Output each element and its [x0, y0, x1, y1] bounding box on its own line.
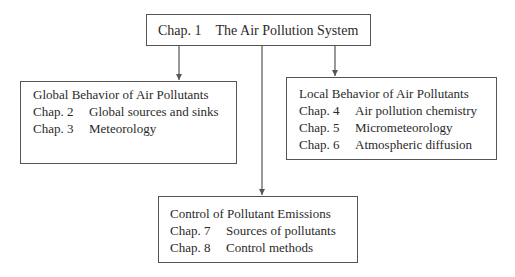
chapter-entry: Chap. 3 Meteorology — [33, 120, 236, 137]
chapter-number: Chap. 6 — [299, 136, 355, 153]
chapter-title: Sources of pollutants — [226, 222, 336, 239]
section-heading: Local Behavior of Air Pollutants — [299, 85, 496, 102]
local-behavior-box: Local Behavior of Air Pollutants Chap. 4… — [286, 77, 497, 160]
chapter-entry: Chap. 5 Micrometeorology — [299, 119, 496, 136]
global-behavior-box: Global Behavior of Air Pollutants Chap. … — [20, 81, 237, 164]
chapter-title: Global sources and sinks — [89, 103, 219, 120]
section-heading: Control of Pollutant Emissions — [170, 205, 357, 222]
chapter-title: The Air Pollution System — [216, 22, 359, 39]
chapter-number: Chap. 2 — [33, 103, 89, 120]
chapter-number: Chap. 3 — [33, 120, 89, 137]
chapter-title: Control methods — [226, 239, 313, 256]
chapter-number: Chap. 8 — [170, 239, 226, 256]
chapter-entry: Chap. 6 Atmospheric diffusion — [299, 136, 496, 153]
air-pollution-system-box: Chap. 1 The Air Pollution System — [146, 14, 371, 46]
chapter-number: Chap. 4 — [299, 102, 355, 119]
chapter-number: Chap. 7 — [170, 222, 226, 239]
chapter-title: Meteorology — [89, 120, 219, 137]
chapter-title: Air pollution chemistry — [355, 102, 477, 119]
chapter-entry: Chap. 7 Sources of pollutants — [170, 222, 357, 239]
chapter-number: Chap. 1 — [158, 22, 202, 39]
section-heading: Global Behavior of Air Pollutants — [33, 86, 236, 103]
control-of-emissions-box: Control of Pollutant Emissions Chap. 7 S… — [158, 196, 358, 263]
chapter-title: Atmospheric diffusion — [355, 136, 472, 153]
chapter-number: Chap. 5 — [299, 119, 355, 136]
chapter-entry: Chap. 2 Global sources and sinks — [33, 103, 236, 120]
chapter-entry: Chap. 8 Control methods — [170, 239, 357, 256]
chapter-title: Micrometeorology — [355, 119, 452, 136]
chapter-entry: Chap. 4 Air pollution chemistry — [299, 102, 496, 119]
